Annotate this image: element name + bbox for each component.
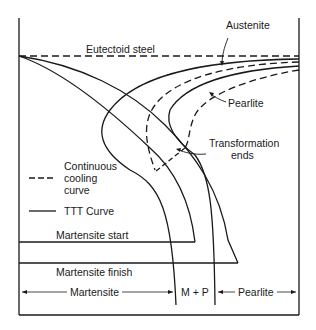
eutectoid-label: Eutectoid steel xyxy=(86,43,155,55)
transformation-ends-line xyxy=(156,148,185,171)
legend-ccc-label-2: cooling xyxy=(64,172,97,184)
legend-ttt-label: TTT Curve xyxy=(64,205,114,217)
region-mp-label: M + P xyxy=(181,286,209,298)
ttt-diagram-canvas xyxy=(0,0,316,330)
pearlite-label: Pearlite xyxy=(228,97,264,109)
austenite-label: Austenite xyxy=(226,19,270,31)
legend-ccc-label-1: Continuous xyxy=(64,160,117,172)
martensite-start-label: Martensite start xyxy=(56,229,128,241)
region-martensite-label: Martensite xyxy=(67,286,122,298)
cooling-curve-slow xyxy=(19,56,238,263)
legend-ccc-label-3: curve xyxy=(64,184,90,196)
transformation-ends-label-2: ends xyxy=(231,149,254,161)
transformation-ends-label-1: Transformation xyxy=(209,137,279,149)
austenite-pointer-icon xyxy=(222,38,228,64)
region-pearlite-label: Pearlite xyxy=(235,286,277,298)
martensite-finish-label: Martensite finish xyxy=(56,266,132,278)
